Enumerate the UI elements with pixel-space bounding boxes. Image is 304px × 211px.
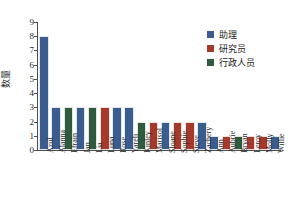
x-tick-label: Willie (278, 133, 286, 153)
legend-item[interactable]: 研究员 (207, 41, 255, 55)
x-tick-label: Jan (84, 142, 92, 153)
y-tick-label: 3 (10, 103, 34, 112)
x-tick-label: Azul (47, 137, 55, 153)
x-tick-label: Aubrie (229, 131, 237, 153)
y-axis-tick-labels: 0123456789 (8, 22, 34, 151)
legend: 助理研究员行政人员 (207, 27, 255, 69)
y-tick-label: 5 (10, 74, 34, 83)
y-tick-mark (34, 22, 37, 23)
y-tick-mark (34, 122, 37, 123)
x-tick-label: Yareli (132, 134, 140, 153)
x-tick-label: Zachery (205, 127, 213, 153)
x-tick-label: Rose (120, 137, 128, 153)
x-tick-label: Kinley (144, 131, 152, 153)
y-tick-mark (34, 93, 37, 94)
y-tick-label: 6 (10, 60, 34, 69)
bar (39, 36, 48, 150)
y-tick-label: 9 (10, 18, 34, 27)
y-tick-label: 4 (10, 89, 34, 98)
x-tick-label: Sloane (169, 131, 177, 153)
y-tick-label: 1 (10, 131, 34, 140)
x-tick-label: Lia (96, 142, 104, 153)
y-tick-mark (34, 65, 37, 66)
x-tick-label: Marisol (156, 128, 164, 153)
y-tick-mark (34, 50, 37, 51)
y-tick-mark (34, 107, 37, 108)
x-tick-label: Leroy (254, 134, 262, 153)
y-tick-mark (34, 79, 37, 80)
y-tick-label: 8 (10, 32, 34, 41)
y-tick-label: 0 (10, 146, 34, 155)
y-tick-label: 7 (10, 46, 34, 55)
x-tick-label: Alanna (59, 130, 67, 153)
y-axis-title: 数量 (0, 70, 12, 88)
legend-item[interactable]: 行政人员 (207, 55, 255, 69)
legend-swatch-icon (207, 45, 214, 52)
y-tick-mark (34, 136, 37, 137)
legend-label: 助理 (219, 28, 237, 41)
x-tick-label: Sophie (181, 131, 189, 153)
x-tick-label: Bryan (241, 133, 249, 153)
x-tick-label: Luna (108, 137, 116, 153)
legend-label: 研究员 (219, 42, 246, 55)
legend-swatch-icon (207, 31, 214, 38)
legend-swatch-icon (207, 59, 214, 66)
y-tick-mark (34, 36, 37, 37)
y-tick-label: 2 (10, 117, 34, 126)
y-tick-mark (34, 150, 37, 151)
bar-chart: 0123456789 数量 AzulAlannaEfrainJanLiaLuna… (0, 0, 304, 211)
x-tick-label: Ann (217, 139, 225, 153)
x-tick-label: Molly (266, 133, 274, 153)
x-tick-label: Efrain (71, 133, 79, 153)
legend-item[interactable]: 助理 (207, 27, 255, 41)
legend-label: 行政人员 (219, 56, 255, 69)
x-tick-label: Steve (193, 135, 201, 153)
